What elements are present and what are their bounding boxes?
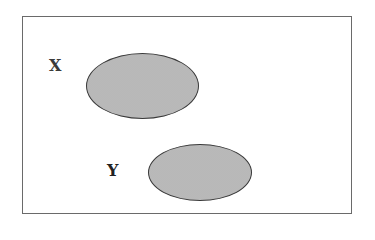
set-y-ellipse [148,144,252,201]
set-x-label: X [49,58,61,74]
set-y-label: Y [107,163,118,179]
set-x-ellipse [86,53,199,119]
